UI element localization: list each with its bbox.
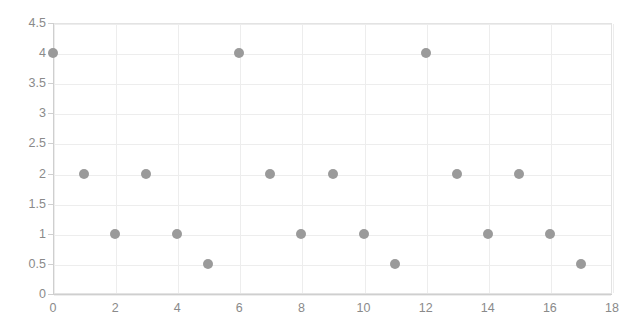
y-axis-tick-label: 4.5 <box>0 17 46 30</box>
gridline-vertical <box>489 24 490 293</box>
y-axis-tick-mark <box>48 174 53 175</box>
y-axis-line <box>53 23 54 294</box>
gridline-horizontal <box>54 295 611 296</box>
data-point <box>545 229 555 239</box>
x-axis-tick-label: 16 <box>530 302 570 315</box>
x-axis-tick-label: 14 <box>468 302 508 315</box>
data-point <box>576 259 586 269</box>
y-axis-tick-label: 0 <box>0 288 46 301</box>
y-axis-tick-mark <box>48 143 53 144</box>
x-axis-tick-label: 18 <box>592 302 632 315</box>
x-axis-line <box>53 294 612 295</box>
gridline-horizontal <box>54 24 611 25</box>
x-axis-tick-label: 10 <box>344 302 384 315</box>
y-axis-tick-mark <box>48 83 53 84</box>
gridline-horizontal <box>54 235 611 236</box>
data-point <box>390 259 400 269</box>
gridline-horizontal <box>54 144 611 145</box>
gridline-horizontal <box>54 205 611 206</box>
data-point <box>514 169 524 179</box>
gridline-horizontal <box>54 114 611 115</box>
gridline-vertical <box>365 24 366 293</box>
data-point <box>110 229 120 239</box>
plot-area <box>53 23 612 294</box>
y-axis-tick-mark <box>48 204 53 205</box>
x-axis-tick-label: 6 <box>219 302 259 315</box>
gridline-horizontal <box>54 265 611 266</box>
x-axis-tick-label: 8 <box>281 302 321 315</box>
data-point <box>483 229 493 239</box>
gridline-vertical <box>240 24 241 293</box>
data-point <box>359 229 369 239</box>
y-axis-tick-mark <box>48 264 53 265</box>
data-point <box>452 169 462 179</box>
y-axis-tick-label: 3 <box>0 107 46 120</box>
scatter-chart: 00.511.522.533.544.5 024681012141618 <box>0 0 635 335</box>
data-point <box>141 169 151 179</box>
x-axis-tick-label: 0 <box>33 302 73 315</box>
y-axis-tick-label: 1 <box>0 228 46 241</box>
y-axis-tick-mark <box>48 234 53 235</box>
gridline-vertical <box>551 24 552 293</box>
y-axis-tick-label: 1.5 <box>0 197 46 210</box>
data-point <box>421 48 431 58</box>
gridline-vertical <box>302 24 303 293</box>
gridline-vertical <box>178 24 179 293</box>
y-axis-tick-label: 2.5 <box>0 137 46 150</box>
gridline-horizontal <box>54 84 611 85</box>
y-axis-tick-label: 3.5 <box>0 77 46 90</box>
y-axis-tick-label: 2 <box>0 167 46 180</box>
gridline-vertical <box>116 24 117 293</box>
y-axis-tick-label: 0.5 <box>0 258 46 271</box>
gridline-vertical <box>54 24 55 293</box>
x-axis-tick-label: 12 <box>406 302 446 315</box>
data-point <box>328 169 338 179</box>
data-point <box>172 229 182 239</box>
data-point <box>79 169 89 179</box>
x-axis-tick-label: 4 <box>157 302 197 315</box>
gridline-vertical <box>427 24 428 293</box>
gridline-horizontal <box>54 54 611 55</box>
y-axis-tick-mark <box>48 23 53 24</box>
x-axis-tick-label: 2 <box>95 302 135 315</box>
y-axis-tick-label: 4 <box>0 47 46 60</box>
y-axis-tick-mark <box>48 294 53 295</box>
data-point <box>265 169 275 179</box>
y-axis-tick-mark <box>48 113 53 114</box>
gridline-vertical <box>613 24 614 293</box>
